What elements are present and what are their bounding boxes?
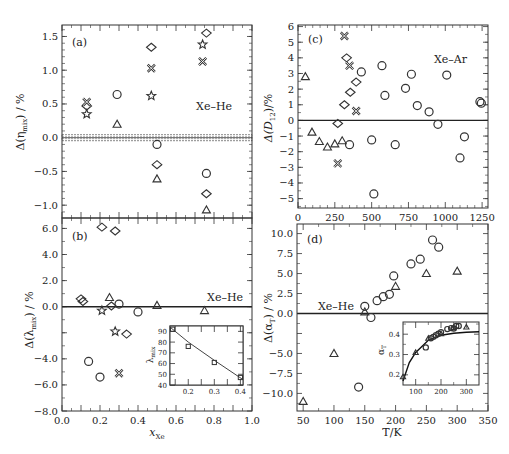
y-tick-label: −5 bbox=[279, 193, 294, 204]
inset-ylabel-sub: T bbox=[380, 345, 387, 349]
y-tick-label: −1 bbox=[279, 131, 294, 142]
ylabel-part: )/% bbox=[262, 94, 275, 112]
y-tick-label: 2 bbox=[288, 84, 294, 95]
y-tick-label: −4.0 bbox=[34, 353, 58, 364]
marker-circle bbox=[96, 373, 104, 381]
marker-cross-inner bbox=[346, 62, 353, 69]
y-tick-label: 1.5 bbox=[42, 31, 58, 42]
marker-circle bbox=[407, 260, 415, 268]
x-tick-label: 200 bbox=[386, 415, 405, 426]
marker-diamond bbox=[342, 54, 352, 62]
y-axis-title: Δ(αT) / % bbox=[262, 293, 277, 343]
y-tick-label: −2 bbox=[279, 146, 294, 157]
marker-circle bbox=[381, 91, 389, 99]
y-tick-label: −10.0 bbox=[262, 388, 293, 399]
ylabel-part: Δ(λ bbox=[23, 330, 36, 349]
annotation-xe-he: Xe–He bbox=[196, 100, 232, 113]
y-tick-label: 0.0 bbox=[42, 132, 58, 143]
ylabel-part: Δ(η bbox=[14, 132, 27, 151]
ylabel-sub: mix bbox=[21, 119, 29, 132]
inset-y-axis-title: λmix bbox=[145, 346, 156, 363]
panel-c: 6543210−1−2−3−4−5025050075010001250(c)Xe… bbox=[262, 21, 495, 223]
inset-b bbox=[170, 326, 243, 385]
marker-circle bbox=[153, 140, 161, 148]
marker-cross-inner bbox=[199, 58, 206, 65]
marker-diamond bbox=[152, 161, 162, 169]
inset-y-tick-label: 0.2 bbox=[389, 371, 400, 379]
inset-y-tick-label: 40 bbox=[158, 382, 167, 390]
panel-a: 1.51.00.50.0−0.5−1.0(a)Xe–HeΔ(ηmix) / % bbox=[14, 25, 252, 218]
x-tick-label: 50 bbox=[297, 415, 310, 426]
marker-diamond bbox=[202, 29, 212, 37]
marker-diamond bbox=[147, 43, 157, 51]
y-tick-label: 10.0 bbox=[271, 228, 293, 239]
y-axis-title: Δ(ηmix) / % bbox=[14, 93, 29, 150]
marker-star bbox=[82, 110, 91, 118]
y-tick-label: 0.0 bbox=[277, 308, 293, 319]
marker-triangle bbox=[308, 128, 316, 135]
x-tick-label: 0.0 bbox=[54, 415, 70, 426]
y-tick-label: 2.5 bbox=[277, 288, 293, 299]
marker-circle bbox=[361, 302, 369, 310]
marker-cross-inner bbox=[115, 370, 122, 377]
marker-circle bbox=[435, 243, 443, 251]
marker-diamond bbox=[202, 190, 212, 198]
y-tick-label: −7.5 bbox=[269, 368, 293, 379]
ylabel-part: Δ(D bbox=[262, 121, 275, 143]
x-tick-label: 1000 bbox=[433, 212, 458, 223]
y-tick-label: 4.0 bbox=[42, 249, 58, 260]
figure: 1.51.00.50.0−0.5−1.0(a)Xe–HeΔ(ηmix) / %6… bbox=[0, 0, 509, 454]
marker-circle bbox=[368, 136, 376, 144]
marker-cross-inner bbox=[83, 98, 90, 105]
marker-cross-inner bbox=[334, 160, 341, 167]
y-tick-label: 6 bbox=[288, 21, 294, 32]
annotation-xe-he: Xe–He bbox=[207, 291, 243, 304]
panel-d: 10.07.55.02.50.0−5.0−7.5−10.050100150200… bbox=[262, 224, 498, 439]
panel-label-b: (b) bbox=[72, 230, 88, 243]
marker-circle bbox=[355, 383, 363, 391]
marker-circle bbox=[134, 308, 142, 316]
inset-x-tick-label: 0.2 bbox=[183, 388, 194, 396]
marker-circle bbox=[357, 68, 365, 76]
inset-ylabel-sub: mix bbox=[149, 346, 156, 358]
xlabel-sub: Xe bbox=[156, 433, 165, 441]
inset-y-tick-label: 0.3 bbox=[389, 351, 400, 359]
y-tick-label: −4 bbox=[279, 177, 294, 188]
x-tick-label: 0.8 bbox=[206, 415, 222, 426]
inset-y-tick-label: 50 bbox=[158, 371, 167, 379]
x-tick-label: 300 bbox=[448, 415, 467, 426]
ylabel-part: ) / % bbox=[23, 291, 36, 316]
x-tick-label: 0 bbox=[295, 212, 301, 223]
x-tick-label: 150 bbox=[355, 415, 374, 426]
inset-y-tick-label: 80 bbox=[158, 339, 167, 347]
y-tick-label: 7.5 bbox=[277, 248, 293, 259]
x-tick-label: 350 bbox=[478, 415, 497, 426]
x-tick-label: 1250 bbox=[469, 212, 494, 223]
marker-cross-inner bbox=[148, 65, 155, 72]
marker-circle bbox=[113, 91, 121, 99]
panel-label-d: (d) bbox=[307, 233, 323, 246]
y-tick-label: −0.5 bbox=[34, 166, 58, 177]
y-tick-label: 0.5 bbox=[42, 98, 58, 109]
y-tick-label: 5 bbox=[288, 37, 294, 48]
marker-circle bbox=[429, 236, 437, 244]
marker-star bbox=[111, 327, 120, 335]
axes-frame bbox=[62, 25, 252, 218]
marker-diamond bbox=[345, 88, 355, 96]
y-tick-label: 1.0 bbox=[42, 65, 58, 76]
inset-y-axis-title: αT bbox=[376, 345, 387, 355]
inset-x-tick-label: 0.3 bbox=[209, 388, 220, 396]
marker-circle bbox=[370, 190, 378, 198]
y-tick-label: −3 bbox=[279, 162, 294, 173]
marker-circle bbox=[407, 70, 415, 78]
y-tick-label: 6.0 bbox=[42, 223, 58, 234]
ylabel-sub: mix bbox=[30, 317, 38, 330]
marker-triangle bbox=[392, 282, 400, 289]
panel-label-a: (a) bbox=[72, 36, 87, 49]
marker-triangle bbox=[106, 294, 114, 301]
inset-x-tick-label: 100 bbox=[409, 388, 422, 396]
y-tick-label: 0.0 bbox=[42, 301, 58, 312]
ylabel-part: Δ(α bbox=[262, 323, 275, 343]
marker-triangle bbox=[202, 206, 210, 213]
marker-diamond bbox=[110, 227, 120, 235]
